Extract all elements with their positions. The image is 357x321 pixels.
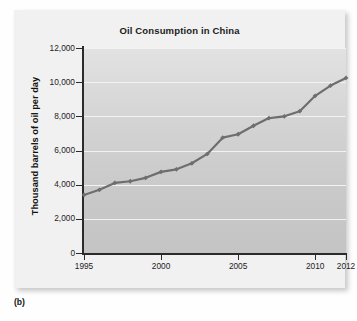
x-axis-tick-label: 2010 [306, 261, 324, 271]
y-axis-tick [76, 185, 82, 186]
x-axis-tick [238, 255, 239, 260]
x-axis-tick [84, 255, 85, 260]
gridline-y [84, 151, 346, 152]
y-axis-tick [76, 219, 82, 220]
x-axis-tick [346, 255, 347, 260]
y-axis-tick-label: 12,000 [29, 43, 75, 53]
gridline-y [84, 48, 346, 49]
figure-card: Oil Consumption in China Thousand barrel… [14, 10, 345, 288]
x-axis-tick [161, 255, 162, 260]
gridline-y [84, 116, 346, 117]
x-axis-tick [315, 255, 316, 260]
chart-title: Oil Consumption in China [14, 25, 345, 36]
y-axis-line [82, 46, 84, 255]
y-axis-tick-label: 6,000 [29, 145, 75, 155]
x-axis-tick-label: 2000 [152, 261, 170, 271]
x-axis-tick-label: 2005 [229, 261, 247, 271]
y-axis-tick-label: 10,000 [29, 77, 75, 87]
y-axis-tick [76, 151, 82, 152]
y-axis-tick-label: 2,000 [29, 213, 75, 223]
gridline-y [84, 219, 346, 220]
y-axis-tick [76, 82, 82, 83]
gridline-y [84, 82, 346, 83]
x-axis-tick-label: 2012 [337, 261, 355, 271]
y-axis-tick [76, 116, 82, 117]
y-axis-tick [76, 253, 82, 254]
x-axis-tick-label: 1995 [75, 261, 93, 271]
y-axis-tick-label: 8,000 [29, 111, 75, 121]
panel-label: (b) [14, 297, 25, 307]
y-axis-tick [76, 48, 82, 49]
y-axis-tick-label: 4,000 [29, 179, 75, 189]
gridline-y [84, 185, 346, 186]
y-axis-tick-label: 0 [29, 248, 75, 258]
plot-area [84, 48, 346, 253]
x-axis-line [82, 253, 347, 255]
